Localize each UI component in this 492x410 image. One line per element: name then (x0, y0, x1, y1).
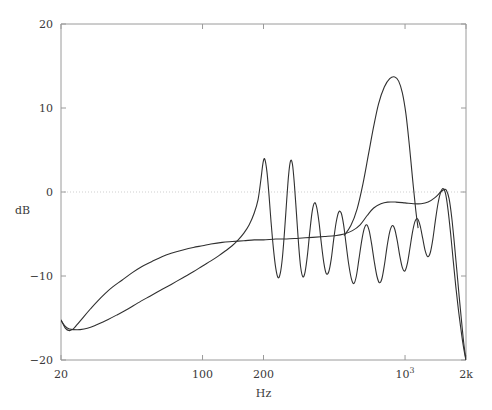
plot-canvas (0, 0, 492, 410)
x-tick-label-1000: 103 (380, 369, 430, 380)
x-tick-label-2k: 2k (441, 369, 491, 380)
x-tick-label-100: 100 (178, 369, 228, 380)
x-axis-title: Hz (244, 388, 284, 399)
x-tick-label-200: 200 (239, 369, 289, 380)
y-tick-label-m20: −20 (23, 355, 53, 366)
series-smooth-response (61, 189, 466, 360)
y-tick-label-20: 20 (23, 19, 53, 30)
y-tick-label-10: 10 (23, 103, 53, 114)
chart-figure: 20 10 0 −10 −20 20 100 200 103 2k dB Hz (0, 0, 492, 410)
series-resonant-response (61, 159, 466, 360)
x-tick-label-20: 20 (36, 369, 86, 380)
y-tick-label-0: 0 (23, 187, 53, 198)
y-axis-title: dB (15, 205, 30, 216)
series-resonant-high-peak (344, 77, 418, 236)
y-tick-label-m10: −10 (23, 271, 53, 282)
